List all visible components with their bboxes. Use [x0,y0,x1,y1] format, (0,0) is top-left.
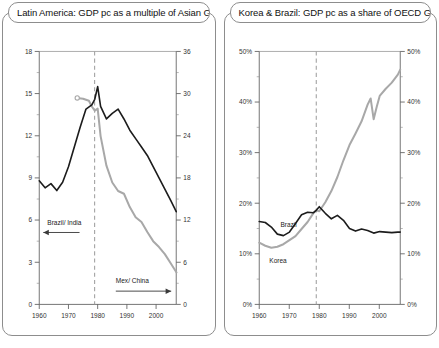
y-tick-label: 40% [239,98,252,105]
chart-svg-korea-brazil: 0% 10% 20% 30% 40% 50% [225,29,437,335]
y-tick-label: 20% [239,200,252,207]
page-title: Latin America: GDP pc as a multiple of A… [17,7,210,18]
x-tick-label: 1990 [342,312,357,319]
x-tick-label: 1970 [61,312,76,319]
left-axis-ticks [35,51,40,304]
annotation-arrow-right [116,288,171,294]
x-axis-ticks [39,304,156,309]
series-label-brazil: Brazil [280,221,297,228]
y-tick-label: 18 [25,48,33,55]
left-axis-ticks [254,51,259,304]
y2-tick-label: 6 [183,259,187,266]
y2-tick-label: 36 [183,48,191,55]
x-tick-label: 1960 [32,312,47,319]
plot-area-latin-america: 0 3 6 9 12 15 18 [3,29,215,335]
x-tick-label: 2000 [149,312,164,319]
x-tick-label: 1980 [90,312,105,319]
y2-tick-label: 40% [407,98,420,105]
y-tick-label: 12 [25,132,33,139]
y-tick-label: 9 [29,174,33,181]
chart-svg-latin-america: 0 3 6 9 12 15 18 [3,29,215,335]
x-tick-label: 1990 [120,312,135,319]
y2-tick-label: 0 [183,301,187,308]
right-axis-ticks [176,51,181,304]
page-title: Korea & Brazil: GDP pc as a share of OEC… [239,7,432,18]
series-label-mex-china: Mex/ China [116,277,149,284]
right-axis-ticks [400,51,405,304]
y-tick-label: 0% [242,301,252,308]
series-label-korea: Korea [269,257,287,264]
y2-tick-label: 30% [407,149,420,156]
y-tick-label: 10% [239,250,252,257]
y-tick-label: 15 [25,90,33,97]
y2-tick-label: 50% [407,48,420,55]
annotation-arrow-left [43,230,79,236]
y-tick-label: 6 [29,216,33,223]
x-tick-label: 2000 [372,312,387,319]
y2-tick-label: 24 [183,132,191,139]
y-tick-label: 50% [239,48,252,55]
y2-tick-label: 30 [183,90,191,97]
panel-title-box-latin-america: Latin America: GDP pc as a multiple of A… [8,2,210,23]
x-axis-ticks [259,304,379,309]
y-tick-label: 0 [29,301,33,308]
y2-tick-label: 20% [407,200,420,207]
panel-korea-brazil: Korea & Brazil: GDP pc as a share of OEC… [224,12,438,336]
y2-tick-label: 10% [407,250,420,257]
series-start-marker-mex-china [75,96,79,100]
panel-latin-america: Latin America: GDP pc as a multiple of A… [2,12,216,336]
y2-tick-label: 0% [407,301,417,308]
series-line-brazil-india [39,87,176,212]
y2-tick-label: 18 [183,174,191,181]
plot-area-korea-brazil: 0% 10% 20% 30% 40% 50% [225,29,437,335]
panel-title-box-korea-brazil: Korea & Brazil: GDP pc as a share of OEC… [230,2,432,23]
series-label-brazil-india: Brazil/ India [47,219,81,226]
x-tick-label: 1980 [311,312,326,319]
x-tick-label: 1960 [251,312,266,319]
y-tick-label: 3 [29,259,33,266]
y-tick-label: 30% [239,149,252,156]
x-tick-label: 1970 [281,312,296,319]
y2-tick-label: 12 [183,216,191,223]
figure-root: Latin America: GDP pc as a multiple of A… [0,0,439,348]
